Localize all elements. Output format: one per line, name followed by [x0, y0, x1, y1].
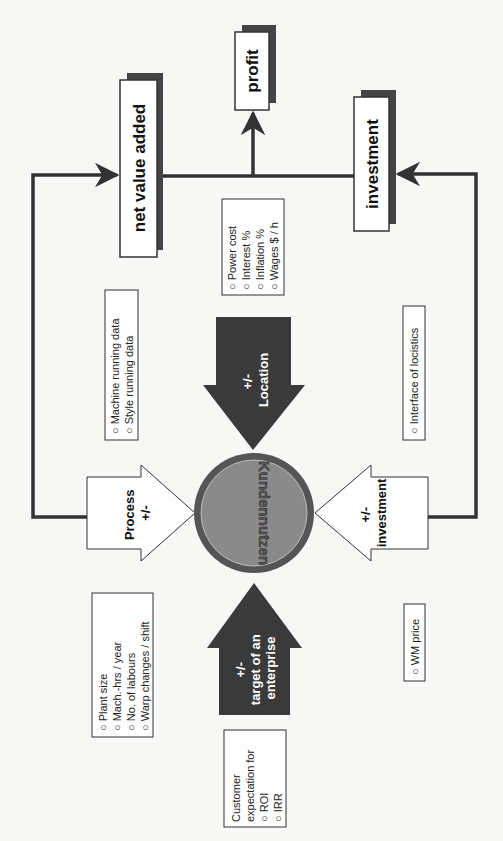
net-value-added-box: net value added: [120, 73, 163, 257]
costs-item: ○ Wages $ / h: [268, 222, 280, 290]
running-item: ○ Machine running data: [109, 318, 121, 434]
costs-item: ○ Inflation %: [254, 229, 266, 290]
customer-line: expectation for: [244, 750, 256, 822]
profit-label: profit: [243, 49, 262, 93]
costs-item: ○ Power cost: [226, 226, 238, 290]
customer-item: ○ IRR: [272, 793, 284, 822]
plant-item: ○ No. of labours: [125, 652, 137, 731]
logistics-item: ○ Interface of locistics: [408, 327, 420, 434]
plant-box: ○ Plant size ○ Mach.-hrs / year ○ No. of…: [92, 593, 153, 737]
location-arrow: +/- Location: [203, 317, 305, 450]
wm-item: ○ WM price: [409, 619, 421, 675]
net-value-added-label: net value added: [130, 104, 149, 232]
plant-item: ○ Mach.-hrs / year: [111, 641, 123, 731]
left-feedback-line: [33, 175, 117, 517]
investment-output-box: investment: [354, 90, 396, 231]
customer-item: ○ ROI: [258, 793, 270, 822]
kundennutzen-circle: Kundennutzen: [194, 453, 314, 573]
running-item: ○ Style running data: [123, 335, 135, 434]
process-arrow: Process +/-: [87, 465, 195, 561]
costs-box: ○ Power cost ○ Interest % ○ Inflation % …: [222, 199, 284, 295]
costs-item: ○ Interest %: [240, 231, 252, 290]
plant-item: ○ Warp changes / shift: [139, 621, 151, 731]
investment-output-label: investment: [363, 119, 382, 209]
plant-item: ○ Plant size: [97, 674, 109, 731]
profit-box: profit: [235, 25, 276, 110]
target-arrow: +/- target of an enterprise: [207, 583, 302, 715]
wm-price-box: ○ WM price: [404, 604, 425, 681]
logistics-box: ○ Interface of locistics: [403, 306, 425, 440]
center-label: Kundennutzen: [256, 461, 273, 565]
customer-box: Customer expectation for ○ ROI ○ IRR: [224, 730, 286, 827]
value-diagram: net value added profit investment ○ Powe…: [0, 0, 503, 841]
running-data-box: ○ Machine running data ○ Style running d…: [105, 290, 138, 440]
investment-input-arrow: +/- investment: [315, 465, 428, 561]
customer-line: Customer: [230, 774, 242, 822]
